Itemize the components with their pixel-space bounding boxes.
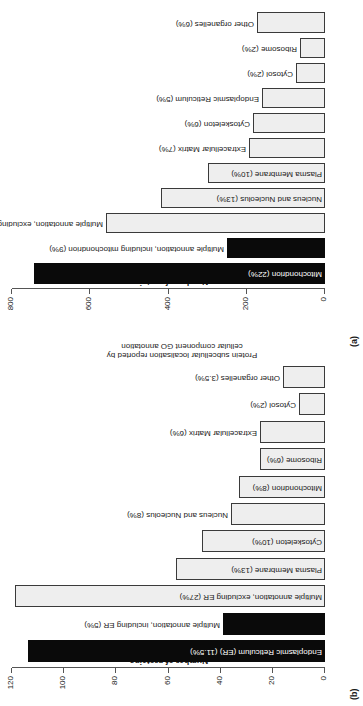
panel-b-plot-area: Number of proteins 020406080100120 Endop… <box>12 361 325 668</box>
bar[interactable] <box>260 421 325 443</box>
bar-slot[interactable]: Multiple annotation, including ER (5%) <box>12 613 325 635</box>
bar-slot[interactable]: Mitochondrion (22%) <box>12 263 325 283</box>
bar-category-label: Endoplasmic Reticulum (5%) <box>157 95 260 103</box>
panel-a-bars: Mitochondrion (22%)Multiple annotation, … <box>12 10 325 286</box>
bar[interactable] <box>262 88 325 108</box>
bar-category-label: Ribosome (6%) <box>267 456 322 464</box>
bar-category-label: Multiple annotation, including ER (5%) <box>85 621 221 629</box>
bar-category-label: Cytoskeleton (10%) <box>252 538 322 546</box>
axis-tick-label: 40 <box>216 676 224 685</box>
axis-tick: 120 <box>11 668 12 673</box>
bar-category-label: Ribosome (2%) <box>241 45 296 53</box>
bar[interactable] <box>249 138 325 158</box>
bar-category-label: Other organelles (6%) <box>175 20 253 28</box>
bar-category-label: Multiple annotation, including mitochond… <box>49 245 224 253</box>
bar-slot[interactable]: Plasma Membrane (13%) <box>12 558 325 580</box>
axis-tick-label: 100 <box>59 676 67 689</box>
panel-a-plot-area: Number of proteins 0200400600800 Mitocho… <box>12 8 325 289</box>
bar-category-label: Nucleus and Nucleolus (8%) <box>127 511 228 519</box>
panel-b: (b) Number of proteins 020406080100120 E… <box>0 353 363 706</box>
figure-canvas: (b) Number of proteins 020406080100120 E… <box>0 0 363 706</box>
axis-tick: 40 <box>220 668 221 673</box>
axis-tick-label: 400 <box>164 297 172 310</box>
bar[interactable] <box>299 393 325 415</box>
bar-slot[interactable]: Cytoskeleton (10%) <box>12 530 325 552</box>
bar-slot[interactable]: Plasma Membrane (10%) <box>12 163 325 183</box>
bar-category-label: Plasma Membrane (10%) <box>231 170 322 178</box>
axis-tick: 100 <box>63 668 64 673</box>
axis-tick-label: 120 <box>7 676 15 689</box>
bar-slot[interactable]: Cytoskeleton (6%) <box>12 113 325 133</box>
panel-a: (a) Protein subcellular localisation rep… <box>0 0 363 353</box>
axis-tick-label: 0 <box>320 297 328 301</box>
axis-tick: 600 <box>89 289 90 294</box>
axis-tick-label: 800 <box>7 297 15 310</box>
bar[interactable] <box>227 238 325 258</box>
panel-b-tag: (b) <box>349 689 359 701</box>
panel-b-value-axis <box>12 667 325 668</box>
bar-slot[interactable]: Cytosol (2%) <box>12 393 325 415</box>
axis-tick: 60 <box>168 668 169 673</box>
bar-category-label: Cytosol (2%) <box>247 70 293 78</box>
axis-tick-label: 600 <box>85 297 93 310</box>
bar-slot[interactable]: Ribosome (6%) <box>12 448 325 470</box>
side-caption-line-2: cellular component GO annotation <box>32 342 332 351</box>
bar[interactable] <box>300 38 325 58</box>
bar-category-label: Multiple annotation, excluding mitochond… <box>0 220 103 228</box>
axis-tick: 400 <box>168 289 169 294</box>
bar-category-label: Extracellular Matrix (6%) <box>170 429 257 437</box>
bar[interactable] <box>231 503 325 525</box>
bar-slot[interactable]: Endoplasmic Reticulum (5%) <box>12 88 325 108</box>
bar-slot[interactable]: Multiple annotation, including mitochond… <box>12 238 325 258</box>
bar-slot[interactable]: Other organelles (6%) <box>12 13 325 33</box>
axis-tick: 800 <box>11 289 12 294</box>
bar[interactable] <box>283 366 325 388</box>
bar-category-label: Cytoskeleton (6%) <box>184 120 249 128</box>
axis-tick-label: 200 <box>242 297 250 310</box>
axis-tick: 20 <box>272 668 273 673</box>
axis-tick: 0 <box>324 668 325 673</box>
axis-tick-label: 80 <box>111 676 119 685</box>
axis-tick: 80 <box>115 668 116 673</box>
bar[interactable] <box>223 613 325 635</box>
panel-a-value-axis <box>12 288 325 289</box>
bar[interactable] <box>253 113 325 133</box>
bar-slot[interactable]: Ribosome (2%) <box>12 38 325 58</box>
axis-tick-label: 20 <box>268 676 276 685</box>
bar-category-label: Multiple annotation, excluding ER (27%) <box>180 593 322 601</box>
bar-slot[interactable]: Mitochondrion (8%) <box>12 476 325 498</box>
bar-slot[interactable]: Nucleus and Nucleolus (13%) <box>12 188 325 208</box>
bar-slot[interactable]: Multiple annotation, excluding mitochond… <box>12 213 325 233</box>
bar-slot[interactable]: Cytosol (2%) <box>12 63 325 83</box>
bar[interactable] <box>296 63 325 83</box>
bar-category-label: Other organelles (3.5%) <box>195 374 280 382</box>
bar-category-label: Mitochondrion (8%) <box>253 484 322 492</box>
bar-category-label: Endoplasmic Reticulum (ER) (11.5%) <box>190 648 322 656</box>
bar[interactable] <box>257 13 325 33</box>
bar-slot[interactable]: Other organelles (3.5%) <box>12 366 325 388</box>
bar-slot[interactable]: Nucleus and Nucleolus (8%) <box>12 503 325 525</box>
bar-category-label: Cytosol (2%) <box>250 401 296 409</box>
bar-category-label: Nucleus and Nucleolus (13%) <box>217 195 322 203</box>
bar-category-label: Mitochondrion (22%) <box>248 270 322 278</box>
panel-b-bars: Endoplasmic Reticulum (ER) (11.5%)Multip… <box>12 363 325 665</box>
bar[interactable] <box>106 213 325 233</box>
panel-a-side-caption: Protein subcellular localisation reporte… <box>32 342 332 361</box>
axis-tick: 0 <box>324 289 325 294</box>
bar-slot[interactable]: Endoplasmic Reticulum (ER) (11.5%) <box>12 640 325 662</box>
axis-tick-label: 0 <box>320 676 328 680</box>
axis-tick: 200 <box>246 289 247 294</box>
bar-slot[interactable]: Extracellular Matrix (7%) <box>12 138 325 158</box>
panel-a-tag: (a) <box>349 336 359 347</box>
bar-category-label: Extracellular Matrix (7%) <box>159 145 246 153</box>
bar-category-label: Plasma Membrane (13%) <box>231 566 322 574</box>
bar-slot[interactable]: Multiple annotation, excluding ER (27%) <box>12 585 325 607</box>
axis-tick-label: 60 <box>164 676 172 685</box>
bar-slot[interactable]: Extracellular Matrix (6%) <box>12 421 325 443</box>
side-caption-line-1: Protein subcellular localisation reporte… <box>32 351 332 360</box>
